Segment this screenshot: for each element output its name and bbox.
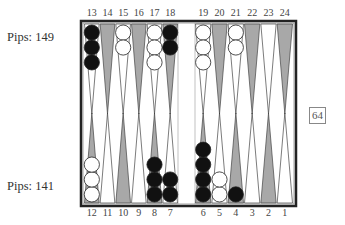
black-checker[interactable] — [147, 172, 162, 187]
white-checker[interactable] — [212, 187, 227, 202]
white-checker[interactable] — [228, 25, 243, 40]
white-checker[interactable] — [147, 25, 162, 40]
black-checker[interactable] — [196, 157, 211, 172]
white-checker[interactable] — [147, 55, 162, 70]
black-checker[interactable] — [84, 40, 99, 55]
white-checker[interactable] — [84, 157, 99, 172]
black-checker[interactable] — [163, 40, 178, 55]
black-checker[interactable] — [84, 25, 99, 40]
black-checker[interactable] — [196, 142, 211, 157]
white-checker[interactable] — [116, 40, 131, 55]
black-checker[interactable] — [163, 172, 178, 187]
white-checker[interactable] — [116, 25, 131, 40]
white-checker[interactable] — [196, 40, 211, 55]
black-checker[interactable] — [196, 172, 211, 187]
black-checker[interactable] — [163, 187, 178, 202]
black-checker[interactable] — [147, 157, 162, 172]
black-checker[interactable] — [196, 187, 211, 202]
white-checker[interactable] — [84, 172, 99, 187]
white-checker[interactable] — [84, 187, 99, 202]
black-checker[interactable] — [163, 25, 178, 40]
white-checker[interactable] — [147, 40, 162, 55]
black-checker[interactable] — [228, 187, 243, 202]
board-inner-border — [83, 23, 294, 204]
backgammon-board[interactable] — [0, 0, 345, 225]
black-checker[interactable] — [84, 55, 99, 70]
white-checker[interactable] — [196, 25, 211, 40]
white-checker[interactable] — [228, 40, 243, 55]
white-checker[interactable] — [196, 55, 211, 70]
white-checker[interactable] — [212, 172, 227, 187]
doubling-cube[interactable]: 64 — [309, 107, 326, 124]
black-checker[interactable] — [147, 187, 162, 202]
